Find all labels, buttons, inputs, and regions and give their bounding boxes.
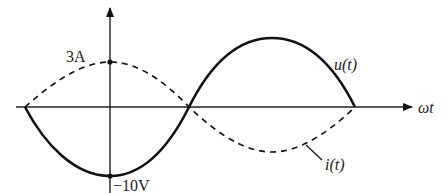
current-peak-label: 3A xyxy=(66,48,86,65)
current-curve-label: i(t) xyxy=(325,156,345,174)
voltage-min-label: −10V xyxy=(113,177,150,193)
x-axis-label: ωt xyxy=(418,99,434,116)
waveform-diagram: 3A −10V u(t) i(t) ωt xyxy=(0,0,446,193)
voltage-min-dot xyxy=(107,173,112,178)
current-label-leader xyxy=(306,145,322,160)
voltage-curve-label: u(t) xyxy=(334,56,357,74)
current-peak-dot xyxy=(107,59,112,64)
